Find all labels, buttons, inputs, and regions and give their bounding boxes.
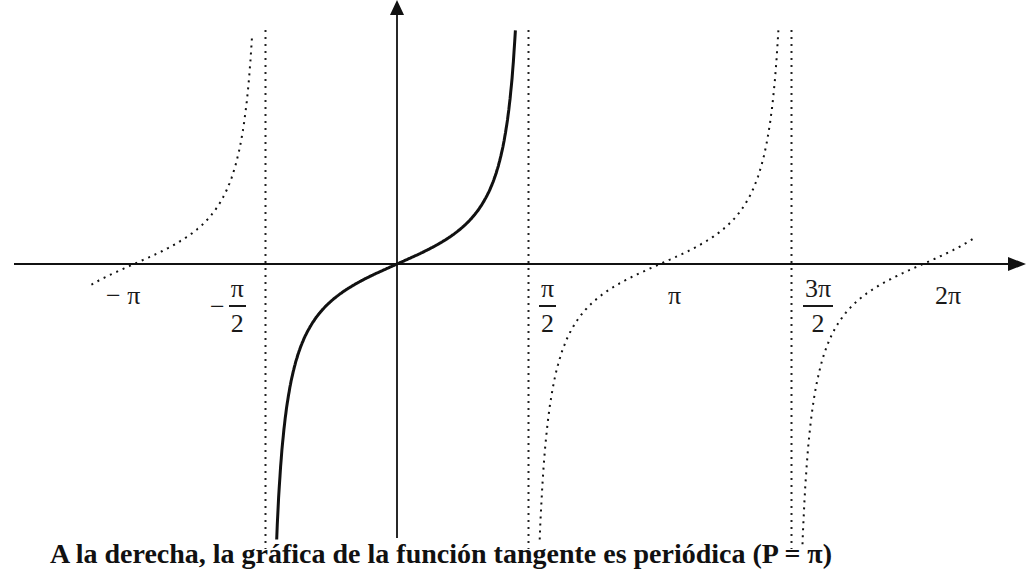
- tick-label-neg-pi: − π: [106, 283, 140, 309]
- tangent-periodic-branch: [91, 36, 252, 284]
- numerator: π: [539, 276, 556, 307]
- tick-label-pi: π: [668, 283, 681, 309]
- tangent-principal-branch: [277, 30, 516, 539]
- figure-caption: A la derecha, la gráfica de la función t…: [50, 538, 832, 570]
- tick-label-half-pi: π 2: [539, 276, 556, 337]
- tick-label-three-half-pi: 3π 2: [803, 276, 833, 337]
- y-axis-arrow-icon: [390, 0, 404, 15]
- numerator: 3π: [803, 276, 833, 307]
- denominator: 2: [231, 307, 244, 337]
- x-axis: [14, 257, 1026, 271]
- y-axis: [390, 0, 404, 538]
- minus-sign: −: [210, 292, 225, 322]
- tangent-periodic-branch: [540, 30, 779, 539]
- x-axis-arrow-icon: [1008, 257, 1026, 271]
- fraction: π 2: [229, 276, 246, 337]
- denominator: 2: [541, 307, 554, 337]
- tick-label-neg-half-pi: − π 2: [210, 276, 246, 337]
- denominator: 2: [812, 307, 825, 337]
- numerator: π: [229, 276, 246, 307]
- tick-label-two-pi: 2π: [935, 283, 961, 309]
